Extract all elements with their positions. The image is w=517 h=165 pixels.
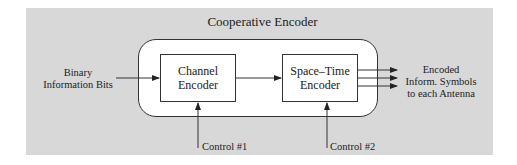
connector-arrows	[0, 0, 517, 165]
